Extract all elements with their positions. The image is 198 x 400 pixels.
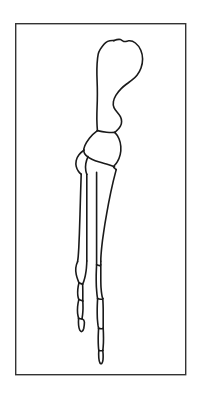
posterior-digit-phalanx-three-right xyxy=(103,328,104,350)
figure-container: Skeletal line drawing of a bird hind lim… xyxy=(0,0,198,400)
border-rectangle xyxy=(16,24,186,375)
skeleton-line-drawing xyxy=(0,0,198,400)
posterior-digit-phalanx-three xyxy=(98,328,99,350)
